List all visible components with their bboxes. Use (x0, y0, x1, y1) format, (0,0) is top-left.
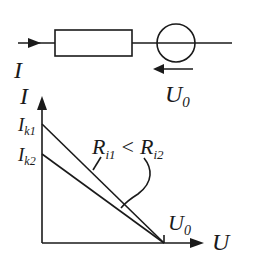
voltage-arrow-icon (153, 64, 164, 74)
x-axis-arrow-icon (190, 238, 204, 248)
leader-ri2 (121, 158, 150, 208)
diagram-canvas: I U0 I U Ik1 Ik2 U0 Ri1<Ri2 (0, 0, 253, 263)
resistance-annotation: Ri1<Ri2 (91, 134, 164, 162)
x-tick-u0: U0 (168, 210, 191, 238)
current-label: I (13, 57, 23, 83)
current-arrow-icon (28, 38, 41, 48)
diagram-svg: I U0 I U Ik1 Ik2 U0 Ri1<Ri2 (0, 0, 253, 263)
x-axis-label: U (212, 229, 231, 255)
source-voltage-label: U0 (165, 81, 190, 110)
resistor (55, 30, 132, 56)
y-tick-ik2: Ik2 (17, 144, 36, 168)
y-tick-ik1: Ik1 (17, 114, 36, 138)
line-ri2 (42, 154, 164, 243)
y-axis-label: I (19, 83, 29, 109)
y-axis-arrow-icon (37, 96, 47, 110)
circuit (18, 24, 232, 74)
